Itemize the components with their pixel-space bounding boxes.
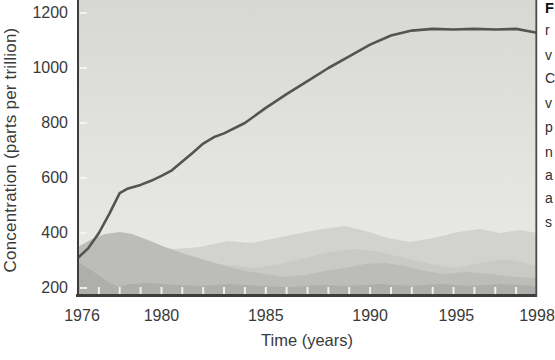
y-axis-tick-label: 800 — [22, 114, 68, 132]
caption-line-fragment: a — [545, 190, 553, 206]
x-axis-title: Time (years) — [261, 331, 353, 350]
y-axis-tick-mark — [80, 12, 87, 14]
caption-line-fragment: n — [545, 144, 553, 160]
caption-line-fragment: p — [545, 119, 553, 135]
y-axis-tick-mark — [80, 232, 87, 234]
plot-right-border — [535, 0, 537, 297]
x-axis-line — [76, 294, 537, 297]
caption-line-fragment: r — [545, 22, 550, 38]
y-axis-tick-mark — [80, 177, 87, 179]
caption-line-fragment: F — [545, 0, 554, 16]
caption-line-fragment: v — [545, 95, 552, 111]
caption-line-fragment: C — [545, 70, 555, 86]
y-axis-tick-label: 200 — [22, 279, 68, 297]
y-axis-title: Concentration (parts per trillion) — [1, 28, 21, 273]
y-axis-tick-mark — [80, 122, 87, 124]
y-axis-tick-label: 1000 — [22, 59, 68, 77]
x-axis-tick-label: 1990 — [352, 307, 388, 325]
caption-line-fragment: v — [545, 47, 552, 63]
x-axis-tick-label: 1976 — [64, 307, 100, 325]
x-axis-tick-label: 1985 — [248, 307, 284, 325]
y-axis-line — [77, 0, 79, 297]
y-axis-tick-mark — [80, 67, 87, 69]
caption-line-fragment: s — [545, 214, 552, 230]
x-axis-tick-label: 1998 — [519, 307, 555, 325]
plot-area — [78, 0, 537, 297]
x-axis-tick-label: 1980 — [144, 307, 180, 325]
y-axis-tick-mark — [80, 287, 87, 289]
y-axis-tick-label: 600 — [22, 169, 68, 187]
y-axis-tick-label: 1200 — [22, 4, 68, 22]
y-axis-tick-label: 400 — [22, 224, 68, 242]
caption-line-fragment: a — [545, 167, 553, 183]
x-axis-tick-label: 1995 — [439, 307, 475, 325]
